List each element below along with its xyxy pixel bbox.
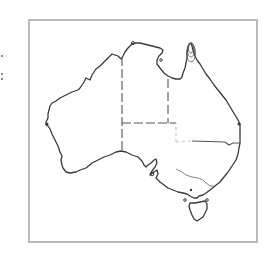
island-king xyxy=(184,199,187,202)
state-borders xyxy=(122,57,240,151)
qld-nsw-border xyxy=(192,141,240,145)
point-perth xyxy=(46,123,49,126)
cape-york-contours xyxy=(187,43,196,62)
point-brisbane xyxy=(238,123,241,126)
island-groote xyxy=(160,59,163,62)
australia-map xyxy=(0,0,272,257)
qld-sa-border xyxy=(168,123,176,142)
point-melbourne xyxy=(190,189,192,191)
murray-river xyxy=(176,169,214,186)
island-flinders xyxy=(206,199,209,202)
mainland-coastline xyxy=(46,43,240,198)
island-melville xyxy=(132,42,135,45)
tasmania-coastline xyxy=(189,201,207,221)
sa-nsw-border xyxy=(176,141,192,142)
